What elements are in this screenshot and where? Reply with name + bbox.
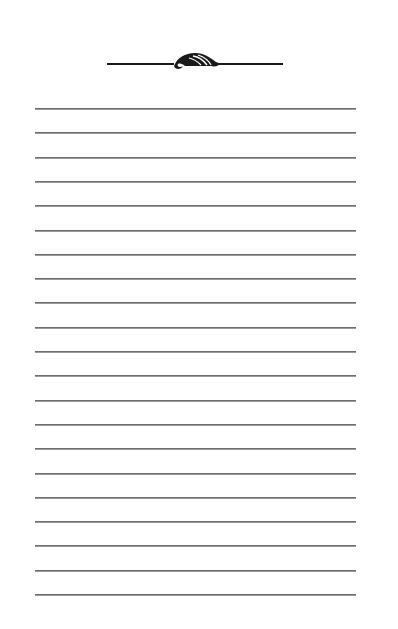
ruled-line xyxy=(35,230,356,232)
ruled-line xyxy=(35,448,356,450)
ruled-line xyxy=(35,205,356,207)
ruled-line xyxy=(35,594,356,596)
ruled-line xyxy=(35,375,356,377)
ruled-line xyxy=(35,400,356,402)
ruled-line xyxy=(35,181,356,183)
ruled-lines-area xyxy=(35,0,356,629)
ruled-line xyxy=(35,254,356,256)
ruled-line xyxy=(35,327,356,329)
ruled-line xyxy=(35,570,356,572)
ruled-line xyxy=(35,108,356,110)
ruled-line xyxy=(35,497,356,499)
ruled-line xyxy=(35,473,356,475)
ruled-line xyxy=(35,302,356,304)
ruled-line xyxy=(35,132,356,134)
ruled-line xyxy=(35,521,356,523)
ruled-line xyxy=(35,157,356,159)
ruled-line xyxy=(35,278,356,280)
ruled-line xyxy=(35,545,356,547)
ruled-line xyxy=(35,351,356,353)
ruled-line xyxy=(35,424,356,426)
